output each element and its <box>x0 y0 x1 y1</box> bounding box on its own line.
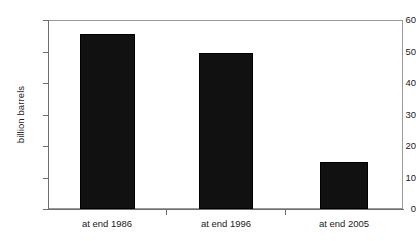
y-tick-mark <box>43 115 48 116</box>
x-tick-mark <box>166 210 167 215</box>
y-axis-title: billion barrels <box>14 20 28 209</box>
x-axis-line <box>48 209 404 210</box>
bar <box>320 162 368 209</box>
bar <box>80 34 135 209</box>
y-tick-label: 20 <box>375 141 416 151</box>
x-tick-mark <box>285 210 286 215</box>
y-axis-line <box>48 20 49 210</box>
x-axis-category-label: at end 1996 <box>166 218 286 229</box>
y-tick-label: 50 <box>375 47 416 57</box>
x-axis-category-label: at end 1986 <box>47 218 167 229</box>
y-tick-mark <box>43 178 48 179</box>
y-tick-mark <box>43 20 48 21</box>
bar-chart: billion barrels 0102030405060 at end 198… <box>0 0 416 241</box>
y-tick-mark <box>43 146 48 147</box>
y-tick-mark <box>43 83 48 84</box>
x-axis-category-label: at end 2005 <box>284 218 404 229</box>
y-tick-label: 0 <box>375 204 416 214</box>
y-tick-label: 30 <box>375 110 416 120</box>
y-tick-mark <box>43 52 48 53</box>
y-tick-mark <box>43 209 48 210</box>
bar <box>199 53 253 209</box>
y-tick-label: 60 <box>375 15 416 25</box>
y-tick-label: 10 <box>375 173 416 183</box>
y-tick-label: 40 <box>375 78 416 88</box>
